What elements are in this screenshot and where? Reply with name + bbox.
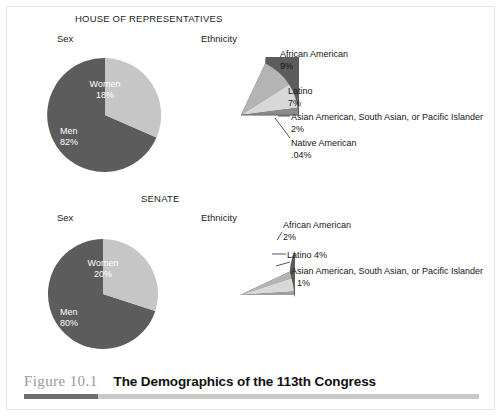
- senate-sex-men-label: Men 80%: [60, 307, 100, 329]
- senate-ethnicity-white-value: 93%: [196, 316, 242, 327]
- senate-ethnicity-white-name: White: [196, 305, 242, 316]
- senate-ethnicity-white-label: White 93%: [196, 305, 242, 327]
- senate-callout-african-american-name: African American: [283, 219, 351, 231]
- senate-ethnicity-chart-title: Ethnicity: [201, 212, 237, 223]
- house-callout-latino-name: Latino: [288, 85, 313, 97]
- senate-sex-women-name: Women: [76, 258, 130, 269]
- house-sex-men-name: Men: [60, 126, 100, 137]
- house-ethnicity-chart-title: Ethnicity: [201, 33, 237, 44]
- senate-callout-latino: Latino 4%: [287, 249, 327, 261]
- house-sex-women-value: 18%: [78, 90, 132, 101]
- figure-container: HOUSE OF REPRESENTATIVES Sex Ethnicity W…: [0, 0, 503, 418]
- house-ethnicity-white-label: White 82%: [196, 128, 242, 150]
- senate-sex-chart-title: Sex: [57, 212, 73, 223]
- house-callout-native-american-value: .04%: [291, 149, 357, 161]
- senate-callout-african-american-value: 2%: [283, 231, 351, 243]
- house-callout-asian-american: Asian American, South Asian, or Pacific …: [291, 111, 483, 135]
- senate-callout-african-american: African American 2%: [283, 219, 351, 243]
- senate-african-american-leader-line: [277, 232, 282, 240]
- house-callout-latino-value: 7%: [288, 97, 313, 109]
- house-sex-women-label: Women 18%: [78, 79, 132, 101]
- caption-rule: [24, 394, 479, 399]
- house-native-leader-line: [275, 118, 290, 138]
- house-callout-native-american: Native American .04%: [291, 137, 357, 161]
- house-callout-latino: Latino 7%: [288, 85, 313, 109]
- senate-callout-asian-american-name: Asian American, South Asian, or Pacific …: [291, 265, 483, 277]
- house-callout-native-american-name: Native American: [291, 137, 357, 149]
- senate-sex-pie-chart: [47, 238, 159, 350]
- figure-number: Figure 10.1: [24, 373, 98, 389]
- caption-rule-accent: [24, 394, 98, 399]
- senate-asian-leader-line: [276, 262, 290, 266]
- house-callout-african-american-value: 9%: [280, 60, 348, 72]
- senate-sex-men-value: 80%: [60, 318, 100, 329]
- house-ethnicity-white-name: White: [196, 128, 242, 139]
- senate-callout-asian-american: Asian American, South Asian, or Pacific …: [291, 265, 483, 289]
- senate-callout-asian-american-value: 1%: [291, 277, 483, 289]
- house-sex-chart-title: Sex: [57, 33, 73, 44]
- figure-title: The Demographics of the 113th Congress: [113, 374, 376, 389]
- senate-sex-women-value: 20%: [76, 269, 130, 280]
- senate-section-heading: SENATE: [141, 193, 180, 204]
- house-ethnicity-white-value: 82%: [196, 139, 242, 150]
- house-callout-asian-american-value: 2%: [291, 123, 483, 135]
- house-callout-african-american: African American 9%: [280, 48, 348, 72]
- house-sex-men-value: 82%: [60, 137, 100, 148]
- senate-sex-women-label: Women 20%: [76, 258, 130, 280]
- house-sex-men-label: Men 82%: [60, 126, 100, 148]
- house-sex-pie-chart: [47, 57, 163, 173]
- house-section-heading: HOUSE OF REPRESENTATIVES: [75, 13, 223, 24]
- house-callout-african-american-name: African American: [280, 48, 348, 60]
- house-sex-women-name: Women: [78, 79, 132, 90]
- house-callout-asian-american-name: Asian American, South Asian, or Pacific …: [291, 111, 483, 123]
- senate-sex-men-name: Men: [60, 307, 100, 318]
